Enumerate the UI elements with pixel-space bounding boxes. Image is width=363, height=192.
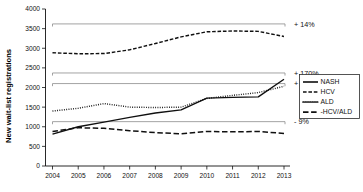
x-axis-ticks: 2004200520062007200820092010201120122013	[45, 166, 292, 179]
y-tick-label: 2000	[25, 84, 40, 91]
x-tick-label: 2004	[45, 172, 60, 179]
legend-label-hcvald: -HCV/ALD	[321, 108, 353, 115]
x-tick-label: 2008	[148, 172, 163, 179]
x-tick-label: 2006	[97, 172, 112, 179]
annotation-hcv: + 14%	[294, 20, 315, 29]
y-axis-title-group: New wait-list registrations	[4, 49, 13, 143]
y-tick-label: 3000	[25, 45, 40, 52]
x-tick-label: 2009	[174, 172, 189, 179]
legend-label-ald: ALD	[321, 98, 334, 105]
reference-bracket	[53, 122, 286, 125]
series-line-hcv	[53, 31, 285, 54]
chart-figure: New wait-list registrations 050010001500…	[0, 0, 363, 192]
x-tick-label: 2013	[277, 172, 292, 179]
series-line-hcvald	[53, 128, 285, 134]
y-axis-ticks: 05001000150020002500300035004000	[25, 5, 45, 169]
y-tick-label: 2500	[25, 64, 40, 71]
y-axis-title: New wait-list registrations	[4, 49, 13, 143]
x-tick-label: 2005	[71, 172, 86, 179]
x-tick-label: 2012	[251, 172, 266, 179]
y-tick-label: 4000	[25, 5, 40, 12]
x-tick-label: 2010	[199, 172, 214, 179]
y-tick-label: 3500	[25, 25, 40, 32]
reference-brackets	[53, 24, 286, 124]
y-tick-label: 1000	[25, 123, 40, 130]
legend-label-hcv: HCV	[321, 88, 336, 95]
reference-bracket	[53, 84, 286, 87]
x-tick-label: 2011	[225, 172, 240, 179]
series-line-ald	[53, 86, 285, 111]
data-series	[53, 31, 285, 134]
y-tick-label: 0	[36, 162, 40, 169]
reference-bracket	[53, 24, 286, 27]
legend-label-nash: NASH	[321, 78, 340, 85]
line-chart: New wait-list registrations 050010001500…	[0, 0, 363, 192]
y-tick-label: 1500	[25, 104, 40, 111]
legend: NASHHCVALD-HCV/ALD	[300, 75, 360, 119]
reference-bracket	[53, 73, 286, 76]
y-tick-label: 500	[29, 143, 40, 150]
x-tick-label: 2007	[122, 172, 137, 179]
